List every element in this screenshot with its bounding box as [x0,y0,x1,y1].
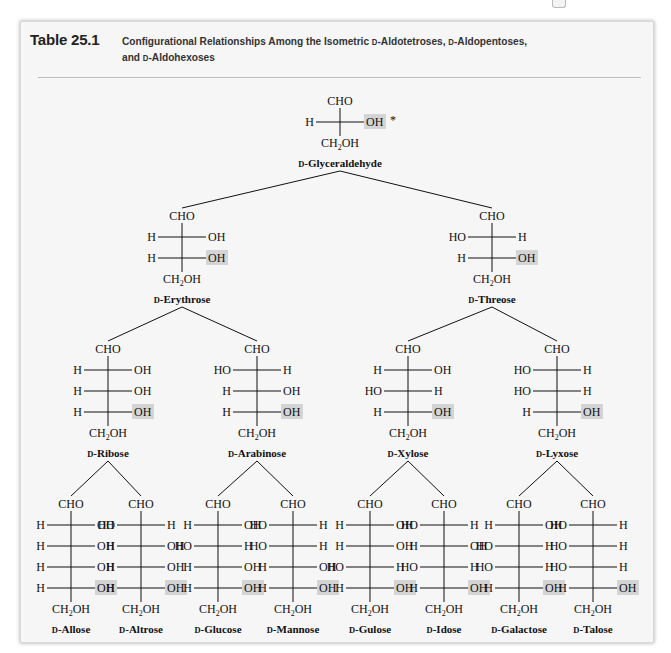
substituent-left: H [258,560,267,574]
substituent-right: OH [434,405,452,419]
substituent-left: HO [365,384,383,398]
substituent-right: OH [208,251,226,265]
sugar-name: D-Mannose [267,623,320,635]
sugar-name: D-Erythrose [154,293,211,305]
substituent-right: OH [208,230,226,244]
substituent-right: OH [583,405,601,419]
substituent-right: OH [167,560,185,574]
sugar-name: D-Idose [427,623,462,635]
molecule-mannose: CHOHOHHOHHOHHOHCH2OHD-Mannose [250,497,339,635]
derivation-line [370,461,408,496]
substituent-left: HO [550,518,568,532]
substituent-left: HO [514,363,532,377]
substituent-right: H [434,384,443,398]
substituent-right: OH [518,251,536,265]
hydroxymethyl-group: CH2OH [321,136,359,152]
sugar-name: D-Allose [52,623,91,635]
substituent-left: H [106,581,115,595]
substituent-right: OH [283,405,301,419]
hydroxymethyl-group: CH2OH [425,602,463,618]
substituent-left: H [106,560,115,574]
hydroxymethyl-group: CH2OH [163,272,201,288]
substituent-left: H [36,581,45,595]
hydroxymethyl-group: CH2OH [389,426,427,442]
sugar-name: D-Arabinose [228,447,286,459]
substituent-left: HO [250,539,268,553]
substituent-left: H [36,539,45,553]
sugar-name: D-Talose [573,623,612,635]
aldehyde-group: CHO [479,209,505,223]
derivation-line [257,461,293,496]
substituent-left: H [183,560,192,574]
substituent-left: HO [214,363,232,377]
substituent-right: H [470,518,479,532]
substituent-left: H [373,405,382,419]
hydroxymethyl-group: CH2OH [199,602,237,618]
hydroxymethyl-group: CH2OH [274,602,312,618]
sugar-name: D-Glyceraldehyde [298,157,382,169]
aldehyde-group: CHO [327,94,353,108]
substituent-right: H [283,363,292,377]
hydroxymethyl-group: CH2OH [52,602,90,618]
sugar-name: D-Glucose [194,623,241,635]
hydroxymethyl-group: CH2OH [473,272,511,288]
derivation-line [408,307,492,341]
substituent-right: OH [283,384,301,398]
substituent-left: H [484,518,493,532]
aldehyde-group: CHO [95,342,121,356]
substituent-right: OH [619,581,637,595]
derivation-line [218,461,257,496]
substituent-left: H [73,384,82,398]
molecule-arabinose: CHOHOHHOHHOHCH2OHD-Arabinose [214,342,303,459]
derivation-line [408,461,444,496]
derivation-line [108,461,141,496]
substituent-left: H [335,539,344,553]
derivation-line [71,461,108,496]
substituent-right: H [583,363,592,377]
molecule-xylose: CHOHOHHOHHOHCH2OHD-Xylose [365,342,454,459]
substituent-left: HO [327,560,345,574]
derivation-line [108,307,182,341]
substituent-right: OH [319,581,337,595]
molecule-erythrose: CHOHOHHOHCH2OHD-Erythrose [147,209,228,305]
substituent-left: H [222,384,231,398]
hydroxymethyl-group: CH2OH [89,426,127,442]
substituent-right: H [619,539,628,553]
substituent-left: H [183,518,192,532]
substituent-left: H [305,115,314,129]
sugar-name: D-Altrose [119,623,163,635]
substituent-left: HO [449,230,467,244]
hydroxymethyl-group: CH2OH [574,602,612,618]
substituent-left: HO [550,539,568,553]
substituent-left: H [373,363,382,377]
substituent-left: H [147,230,156,244]
sugar-name: D-Lyxose [536,447,578,459]
substituent-left: HO [514,384,532,398]
hydroxymethyl-group: CH2OH [351,602,389,618]
sugar-name: D-Ribose [87,447,129,459]
molecule-threose: CHOHOHHOHCH2OHD-Threose [449,209,538,305]
substituent-left: H [36,560,45,574]
derivation-line [492,307,557,341]
aldehyde-group: CHO [205,497,231,511]
molecule-talose: CHOHOHHOHHOHHOHCH2OHD-Talose [550,497,639,635]
substituent-left: HO [175,539,193,553]
substituent-left: H [558,581,567,595]
molecule-ribose: CHOHOHHOHHOHCH2OHD-Ribose [73,342,154,459]
aldehyde-group: CHO [431,497,457,511]
substituent-left: H [522,405,531,419]
substituent-left: HO [401,518,419,532]
substituent-left: H [258,581,267,595]
substituent-right: H [319,539,328,553]
derivation-line [519,461,557,496]
substituent-left: HO [476,539,494,553]
substituent-right: H [583,384,592,398]
asterisk-mark: * [390,113,396,127]
hydroxymethyl-group: CH2OH [238,426,276,442]
aldehyde-group: CHO [280,497,306,511]
substituent-left: HO [476,560,494,574]
sugar-name: D-Galactose [491,623,547,635]
sugar-name: D-Gulose [349,623,391,635]
fischer-projection-tree: CHOHOH*CH2OHD-GlyceraldehydeCHOHOHHOHCH2… [0,0,671,653]
substituent-right: OH [134,363,152,377]
